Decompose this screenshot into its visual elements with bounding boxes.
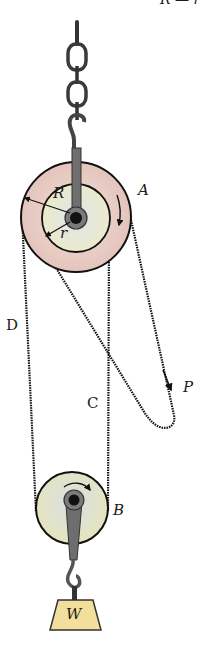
label-outer-radius: R [53, 186, 64, 201]
chain-c [108, 232, 109, 512]
label-inner-radius: r [60, 226, 67, 241]
pulley-a [21, 148, 131, 272]
top-hook [70, 115, 85, 150]
label-pulley-b: B [113, 503, 124, 518]
label-chain-d: D [6, 318, 18, 333]
chain-d [22, 215, 36, 512]
label-pulley-a: A [138, 183, 149, 198]
differential-pulley-diagram: R — r A R r D C P B W [0, 0, 216, 647]
label-chain-c: C [87, 396, 98, 411]
label-weight: W [66, 607, 81, 622]
label-force-p: P [183, 380, 193, 395]
support-chain [68, 22, 86, 120]
pulley-b [36, 472, 108, 560]
lower-hook [68, 560, 80, 600]
top-caption-fragment: R — r [160, 0, 200, 6]
